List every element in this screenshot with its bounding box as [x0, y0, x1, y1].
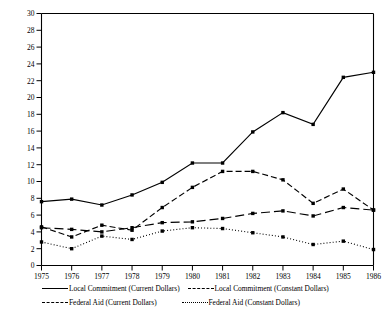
x-axis-tick-label: 1979	[155, 272, 170, 281]
legend-swatch-solid-icon	[42, 282, 68, 295]
series-data-point	[311, 123, 314, 126]
x-axis-tick-label: 1984	[306, 272, 321, 281]
series-data-point	[70, 228, 73, 231]
chart-figure: Thousands of Dollars 0246810121416182022…	[0, 0, 389, 313]
legend-entry-3: Federal Aid (Constant Dollars)	[182, 296, 300, 309]
series-data-point	[191, 161, 194, 164]
x-axis-tick-label: 1982	[245, 272, 260, 281]
series-data-point	[130, 229, 133, 232]
series-data-point	[311, 214, 314, 217]
series-data-point	[281, 235, 284, 238]
series-line	[42, 72, 374, 205]
x-axis-tick-label: 1977	[94, 272, 109, 281]
x-axis-tick-label: 1981	[215, 272, 230, 281]
y-axis-tick-label: 18	[27, 110, 35, 119]
legend-row-2: Federal Aid (Current Dollars) Federal Ai…	[42, 296, 300, 309]
legend-swatch-dash-icon	[42, 296, 68, 309]
series-data-point	[100, 203, 103, 206]
series-data-point	[161, 181, 164, 184]
legend-label-1: Local Commitment (Constant Dollars)	[214, 282, 329, 295]
series-data-point	[281, 178, 284, 181]
series-data-point	[70, 197, 73, 200]
series-data-point	[70, 247, 73, 250]
chart-series	[40, 206, 375, 234]
y-axis-tick-label: 22	[27, 77, 35, 86]
series-data-point	[161, 229, 164, 232]
legend-entry-2: Federal Aid (Current Dollars)	[42, 296, 157, 309]
y-axis-tick-label: 26	[27, 43, 35, 52]
series-data-point	[342, 187, 345, 190]
y-axis-tick-label: 2	[31, 245, 35, 254]
legend-label-0: Local Commitment (Current Dollars)	[68, 282, 180, 295]
series-data-point	[100, 234, 103, 237]
series-data-point	[251, 212, 254, 215]
legend-entry-1: Local Commitment (Constant Dollars)	[188, 282, 329, 295]
chart-legend: Local Commitment (Current Dollars) Local…	[0, 282, 389, 313]
chart-series	[40, 71, 375, 207]
series-data-point	[40, 200, 43, 203]
x-axis-tick-label: 1975	[34, 272, 49, 281]
x-axis-tick-label: 1986	[366, 272, 381, 281]
y-axis-tick-label: 20	[27, 93, 35, 102]
series-data-point	[70, 235, 73, 238]
series-data-point	[221, 227, 224, 230]
y-axis-tick-label: 6	[31, 211, 35, 220]
series-data-point	[161, 206, 164, 209]
legend-swatch-dot-icon	[182, 296, 208, 309]
x-axis-tick-label: 1985	[336, 272, 351, 281]
y-axis-title: Thousands of Dollars	[0, 0, 21, 22]
legend-label-2: Federal Aid (Current Dollars)	[68, 296, 157, 309]
series-data-point	[191, 186, 194, 189]
series-data-point	[372, 248, 375, 251]
series-data-point	[191, 220, 194, 223]
chart-series	[40, 226, 375, 251]
series-data-point	[311, 202, 314, 205]
x-axis-tick-label: 1976	[64, 272, 79, 281]
series-data-point	[281, 209, 284, 212]
series-data-point	[221, 170, 224, 173]
legend-swatch-long-dash-icon	[188, 282, 214, 295]
series-data-point	[372, 71, 375, 74]
y-axis-tick-label: 10	[27, 177, 35, 186]
y-axis-tick-label: 12	[27, 161, 35, 170]
series-data-point	[251, 231, 254, 234]
series-data-point	[130, 193, 133, 196]
legend-entry-0: Local Commitment (Current Dollars)	[42, 282, 180, 295]
series-data-point	[372, 208, 375, 211]
y-axis-tick-label: 14	[27, 144, 35, 153]
legend-label-3: Federal Aid (Constant Dollars)	[208, 296, 300, 309]
y-axis-tick-label: 30	[27, 9, 35, 18]
x-axis-tick-label: 1978	[125, 272, 140, 281]
chart-plot-area: 0246810121416182022242628301975197619771…	[0, 0, 389, 282]
series-data-point	[40, 240, 43, 243]
series-data-point	[311, 243, 314, 246]
y-axis-tick-label: 24	[27, 60, 35, 69]
series-data-point	[100, 230, 103, 233]
series-line	[42, 228, 374, 250]
series-data-point	[221, 161, 224, 164]
series-data-point	[191, 226, 194, 229]
x-axis-tick-label: 1980	[185, 272, 200, 281]
series-data-point	[342, 206, 345, 209]
y-axis-tick-label: 16	[27, 127, 35, 136]
series-data-point	[281, 111, 284, 114]
series-data-point	[161, 221, 164, 224]
y-axis-tick-label: 4	[31, 228, 35, 237]
series-line	[42, 171, 374, 237]
y-axis-tick-label: 28	[27, 26, 35, 35]
legend-row-1: Local Commitment (Current Dollars) Local…	[42, 282, 329, 295]
x-axis-tick-label: 1983	[275, 272, 290, 281]
series-data-point	[251, 170, 254, 173]
series-data-point	[342, 239, 345, 242]
y-axis-tick-label: 8	[31, 194, 35, 203]
y-axis-tick-label: 0	[31, 261, 35, 270]
series-data-point	[100, 223, 103, 226]
series-data-point	[251, 130, 254, 133]
series-data-point	[40, 225, 43, 228]
series-data-point	[130, 238, 133, 241]
series-data-point	[342, 76, 345, 79]
y-axis-title-container: Thousands of Dollars	[0, 0, 22, 270]
series-data-point	[221, 217, 224, 220]
